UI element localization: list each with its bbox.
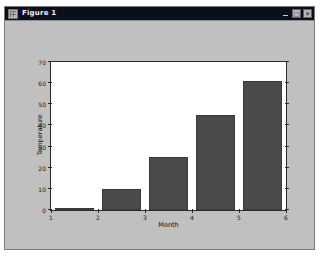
- plot-inner: 010203040506070123456: [51, 62, 286, 210]
- y-tick-label: 70: [38, 59, 46, 66]
- bar: [196, 115, 235, 210]
- y-tick-mark-right: [285, 61, 289, 62]
- y-tick-mark-right: [285, 188, 289, 189]
- y-tick-mark-right: [285, 167, 289, 168]
- minimize-button[interactable]: [281, 9, 290, 18]
- figure-canvas: 010203040506070123456 Month Temperature: [5, 20, 314, 249]
- y-tick-mark: [48, 82, 52, 83]
- y-tick-label: 10: [38, 185, 46, 192]
- x-tick-mark: [239, 209, 240, 213]
- x-tick-mark: [192, 209, 193, 213]
- window-controls: □ ✕: [281, 9, 312, 18]
- y-axis-title: Temperature: [36, 114, 44, 155]
- y-tick-mark-right: [285, 124, 289, 125]
- title-bar[interactable]: Figure 1 □ ✕: [5, 7, 314, 20]
- bar: [149, 157, 188, 210]
- y-tick-label: 20: [38, 164, 46, 171]
- y-tick-mark: [48, 167, 52, 168]
- plot-area: 010203040506070123456: [50, 61, 287, 211]
- y-tick-mark-right: [285, 82, 289, 83]
- y-tick-mark: [48, 103, 52, 104]
- y-tick-label: 50: [38, 101, 46, 108]
- maximize-button[interactable]: □: [292, 9, 301, 18]
- x-tick-label: 5: [237, 214, 241, 221]
- x-tick-label: 2: [96, 214, 100, 221]
- bar: [102, 189, 141, 210]
- y-tick-label: 0: [42, 207, 46, 214]
- x-tick-mark: [51, 209, 52, 213]
- y-tick-mark: [48, 61, 52, 62]
- x-axis-title: Month: [50, 221, 287, 229]
- y-tick-mark-right: [285, 146, 289, 147]
- y-tick-label: 60: [38, 80, 46, 87]
- x-tick-mark: [98, 209, 99, 213]
- x-tick-label: 3: [143, 214, 147, 221]
- window-title: Figure 1: [22, 7, 281, 20]
- y-tick-mark: [48, 188, 52, 189]
- x-tick-label: 6: [284, 214, 288, 221]
- y-tick-mark: [48, 146, 52, 147]
- bar: [55, 208, 94, 210]
- y-tick-mark-right: [285, 103, 289, 104]
- x-tick-label: 4: [190, 214, 194, 221]
- bar: [243, 81, 282, 210]
- x-tick-mark: [286, 209, 287, 213]
- figure-window-icon: [8, 9, 18, 19]
- y-tick-mark: [48, 124, 52, 125]
- close-button[interactable]: ✕: [303, 9, 312, 18]
- x-tick-mark: [145, 209, 146, 213]
- x-tick-label: 1: [49, 214, 53, 221]
- figure-window: Figure 1 □ ✕ 010203040506070123456 Month…: [4, 6, 315, 250]
